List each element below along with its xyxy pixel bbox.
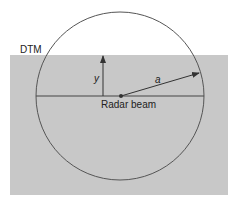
radar-beam-point: [119, 94, 123, 98]
y-label: y: [93, 73, 100, 84]
radar-beam-label: Radar beam: [101, 99, 156, 110]
a-label: a: [155, 74, 161, 85]
dtm-region: [10, 55, 228, 195]
dtm-label: DTM: [20, 44, 42, 55]
diagram: DTM y a Radar beam: [0, 0, 236, 199]
